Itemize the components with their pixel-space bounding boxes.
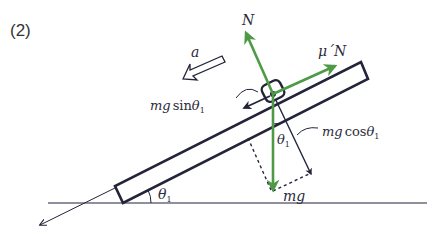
- friction-force-label: μ´N: [318, 43, 347, 59]
- gravity-label: mg: [283, 188, 305, 204]
- incline-direction-arrow: [40, 187, 117, 225]
- mg-cos-label: mgcosθ1: [322, 124, 379, 141]
- acceleration-arrow-icon: [183, 56, 225, 80]
- mg-sin-leader: [236, 89, 258, 98]
- mg-sin-component-arrow: [244, 96, 270, 108]
- acceleration-label: a: [191, 44, 199, 60]
- block-angle-label: θ1: [277, 132, 290, 149]
- inclined-board-free-body-diagram: (2) θ1 θ1 mgcosθ1 mgsinθ1 N μ´N mg a: [0, 0, 427, 240]
- part-label: (2): [10, 21, 31, 40]
- normal-force-arrow: [246, 33, 273, 94]
- incline-angle-arc: [148, 190, 151, 203]
- dashed-sin-guide: [248, 138, 271, 190]
- mg-cos-leader: [297, 128, 318, 135]
- incline-angle-label: θ1: [158, 186, 172, 204]
- mg-sin-label: mgsinθ1: [150, 98, 205, 115]
- normal-force-label: N: [241, 12, 255, 28]
